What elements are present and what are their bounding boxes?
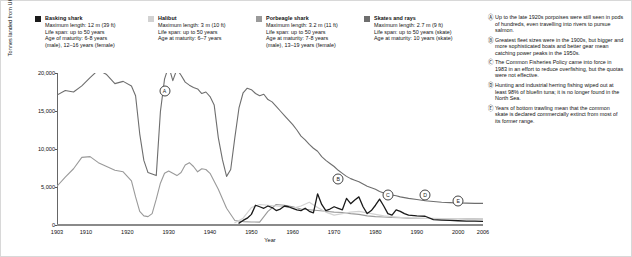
legend-item: Skates and raysMaximum length: 2.7 m (9 … <box>364 15 453 42</box>
series-line <box>57 157 483 223</box>
legend-detail-line: Life span: up to 50 years (skate) <box>374 29 453 36</box>
y-axis-tick-mark <box>55 225 57 226</box>
annotation-note: ⒹHunting and industrial herring fishing … <box>488 82 624 102</box>
legend-item: HalibutMaximum length: 3 m (10 ft)Life s… <box>148 15 226 42</box>
note-text: Years of bottom trawling mean that the c… <box>495 105 624 125</box>
chart-annotation-marker: A <box>159 86 170 97</box>
series-lines <box>57 73 483 225</box>
legend-swatch <box>148 16 154 22</box>
annotation-notes: ⒶUp to the late 1920s porpoises were sti… <box>488 14 624 127</box>
x-axis-tick-label: 1970 <box>328 229 340 235</box>
note-text: Greatest fleet sizes were in the 1900s, … <box>495 37 624 57</box>
note-marker-icon: Ⓑ <box>488 37 493 57</box>
y-axis-tick-mark <box>55 187 57 188</box>
legend-swatch <box>364 16 370 22</box>
legend-swatch <box>35 16 41 22</box>
legend-label: Halibut <box>158 15 177 21</box>
x-axis-tick-label: 1940 <box>204 229 216 235</box>
note-text: The Common Fisheries Policy came into fo… <box>495 59 624 79</box>
y-axis-tick-mark <box>55 149 57 150</box>
x-axis-tick-label: 1980 <box>369 229 381 235</box>
note-text: Up to the late 1920s porpoises were stil… <box>495 14 624 34</box>
y-axis-title: Tonnes landed from UK waters <box>7 0 13 73</box>
legend-detail-line: (male), 13–19 years (female) <box>266 42 338 49</box>
plot-area: ABCDE <box>57 73 483 225</box>
note-text: Hunting and industrial herring fishing w… <box>495 82 624 102</box>
x-axis-tick-label: 1960 <box>287 229 299 235</box>
legend-detail-line: Age at maturity: 10 years (skate) <box>374 35 453 42</box>
legend-item: Basking sharkMaximum length: 12 m (39 ft… <box>35 15 116 48</box>
legend-detail-line: Maximum length: 3 m (10 ft) <box>158 22 226 29</box>
y-axis-tick-label: 20,000 <box>15 70 55 76</box>
legend-swatch <box>256 16 262 22</box>
y-axis-tick-label: 5,000 <box>15 184 55 190</box>
legend-detail-line: Maximum length: 12 m (39 ft) <box>45 22 116 29</box>
y-axis-tick-label: 10,000 <box>15 146 55 152</box>
x-axis-ticks: Year 19031910192019301940195019601970198… <box>57 227 483 239</box>
legend-detail-line: Maximum length: 2.7 m (9 ft) <box>374 22 453 29</box>
x-axis-tick-label: 2000 <box>452 229 464 235</box>
x-axis-tick-label: 2006 <box>477 229 489 235</box>
y-axis-tick-label: 15,000 <box>15 108 55 114</box>
chart-annotation-marker: D <box>420 190 431 201</box>
legend-detail-line: Life span: up to 50 years <box>266 29 338 36</box>
x-axis-tick-label: 1903 <box>51 229 63 235</box>
x-axis-tick-label: 1990 <box>411 229 423 235</box>
legend-item: Porbeagle sharkMaximum length: 3.2 m (11… <box>256 15 338 48</box>
legend-detail-line: Age at maturity: 6–7 years <box>158 35 226 42</box>
chart-figure: Basking sharkMaximum length: 12 m (39 ft… <box>0 0 632 257</box>
legend-detail-line: Age at maturity: 7-8 years <box>266 35 338 42</box>
note-marker-icon: Ⓓ <box>488 82 493 102</box>
x-axis-title: Year <box>57 237 483 243</box>
legend-label: Porbeagle shark <box>266 15 309 21</box>
note-marker-icon: Ⓐ <box>488 14 493 34</box>
series-line <box>57 73 483 203</box>
annotation-note: ⒷGreatest fleet sizes were in the 1900s,… <box>488 37 624 57</box>
legend-label: Basking shark <box>45 15 83 21</box>
chart-annotation-marker: C <box>382 190 393 201</box>
y-axis-ticks: 05,00010,00015,00020,000 <box>11 73 55 225</box>
chart-annotation-marker: E <box>453 196 464 207</box>
note-marker-icon: Ⓒ <box>488 59 493 79</box>
legend-detail-line: (male), 12–16 years (female) <box>45 42 116 49</box>
annotation-note: ⒺYears of bottom trawling mean that the … <box>488 105 624 125</box>
chart-annotation-marker: B <box>333 173 344 184</box>
x-axis-tick-label: 1950 <box>245 229 257 235</box>
x-axis-tick-label: 1930 <box>162 229 174 235</box>
y-axis-tick-mark <box>55 73 57 74</box>
x-axis-tick-label: 1920 <box>121 229 133 235</box>
legend-detail-line: Life span: up to 50 years <box>45 29 116 36</box>
legend-detail-line: Age of maturity: 6-8 years <box>45 35 116 42</box>
legend-detail-line: Maximum length: 3.2 m (11 ft) <box>266 22 338 29</box>
annotation-note: ⒶUp to the late 1920s porpoises were sti… <box>488 14 624 34</box>
x-axis-tick-label: 1910 <box>80 229 92 235</box>
y-axis-tick-label: 0 <box>15 222 55 228</box>
y-axis-tick-mark <box>55 111 57 112</box>
legend: Basking sharkMaximum length: 12 m (39 ft… <box>35 15 485 61</box>
annotation-note: ⒸThe Common Fisheries Policy came into f… <box>488 59 624 79</box>
legend-label: Skates and rays <box>374 15 416 21</box>
legend-detail-line: Life span: up to 50 years <box>158 29 226 36</box>
note-marker-icon: Ⓔ <box>488 105 493 125</box>
